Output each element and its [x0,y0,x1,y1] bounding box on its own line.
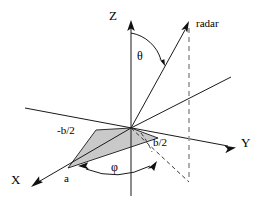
geometry-diagram-canvas: Z Y X radar θ φ -b/2 b/2 a [0,0,259,203]
auxiliary-ray-line [131,77,231,128]
point-a-label: a [64,172,69,184]
theta-angle-label: θ [137,49,143,63]
half-b-label: b/2 [153,136,167,148]
x-axis-label: X [11,172,21,187]
theta-angle-arc [131,33,161,60]
radar-ray-arrowhead [181,21,189,33]
phi-angle-label: φ [111,160,118,174]
x-axis-arrowhead [31,176,43,187]
radar-geometry-figure: Z Y X radar θ φ -b/2 b/2 a [0,0,259,203]
y-axis-arrowhead [225,146,237,154]
neg-half-b-label: -b/2 [57,124,75,136]
theta-arc-arrowhead [158,58,165,66]
radar-ray-label: radar [196,17,219,29]
z-axis-label: Z [109,8,117,23]
phi-angle-arc [86,166,150,175]
y-axis-label: Y [241,135,251,150]
radar-ray-line [131,30,185,128]
